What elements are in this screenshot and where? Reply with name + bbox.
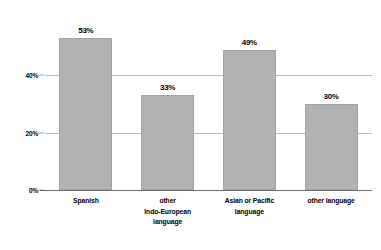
bar [305,104,358,190]
category-label-line: Asian or Pacific [209,196,291,207]
bar [223,50,276,190]
y-axis: 0%20%40% [0,0,38,250]
category-label: other language [290,196,372,207]
plot-area: 53%33%49%30% [45,18,372,190]
y-tick-label: 20% [26,129,38,136]
category-label-line: Indo-European [127,207,209,218]
category-label: Spanish [45,196,127,207]
bar-value-label: 49% [242,39,257,47]
bar-value-label: 30% [324,93,339,101]
bar [141,95,194,190]
category-label-line: other language [290,196,372,207]
bar-group: 49% [223,39,276,190]
y-tick-mark [38,75,44,76]
bar-value-label: 53% [78,27,93,35]
y-tick-label: 0% [29,187,38,194]
y-tick-label: 40% [26,72,38,79]
x-axis-line [40,190,372,191]
y-tick-mark [38,132,44,133]
category-label-line: Spanish [45,196,127,207]
bar-group: 53% [59,27,112,190]
x-axis-category-labels: SpanishotherIndo-EuropeanlanguageAsian o… [45,196,372,246]
bar-group: 30% [305,93,358,190]
bar-group: 33% [141,84,194,190]
bar [59,38,112,190]
category-label-line: language [209,207,291,218]
category-label-line: language [127,217,209,228]
bar-value-label: 33% [160,84,175,92]
category-label-line: other [127,196,209,207]
bar-chart: 0%20%40% 53%33%49%30% SpanishotherIndo-E… [0,0,381,250]
category-label: otherIndo-Europeanlanguage [127,196,209,228]
category-label: Asian or Pacificlanguage [209,196,291,217]
